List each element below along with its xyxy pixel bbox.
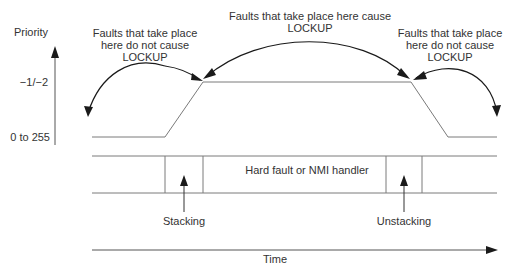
handler-label: Hard fault or NMI handler: [222, 164, 392, 176]
axis-arrow-up-icon: [51, 46, 59, 58]
right-curve-arrow: [416, 69, 497, 113]
time-axis: [92, 246, 498, 254]
annotation-left: Faults that take place here do not cause…: [85, 27, 205, 63]
middle-curve-arrow: [206, 42, 407, 77]
y-tick-low: 0 to 255: [0, 131, 50, 143]
left-curve-arrow: [88, 63, 165, 113]
priority-axis: [51, 46, 59, 145]
priority-trace: [92, 82, 497, 137]
arrow-up-icon: [400, 175, 408, 186]
y-axis-label: Priority: [8, 26, 54, 38]
stacking-label: Stacking: [150, 215, 218, 227]
y-tick-high: −1/−2: [0, 76, 48, 88]
axis-arrow-right-icon: [486, 246, 498, 254]
arrow-head-icon: [203, 68, 216, 79]
annotation-right: Faults that take place here do not cause…: [390, 27, 510, 63]
arrow-head-icon: [492, 105, 501, 117]
x-axis-label: Time: [255, 253, 295, 265]
arrow-up-icon: [180, 175, 188, 186]
arrow-head-icon: [84, 106, 93, 117]
arrow-head-icon: [413, 71, 427, 80]
unstacking-label: Unstacking: [365, 215, 443, 227]
arrow-head-icon: [191, 73, 203, 81]
annotation-middle: Faults that take place here cause LOCKUP: [215, 10, 405, 34]
